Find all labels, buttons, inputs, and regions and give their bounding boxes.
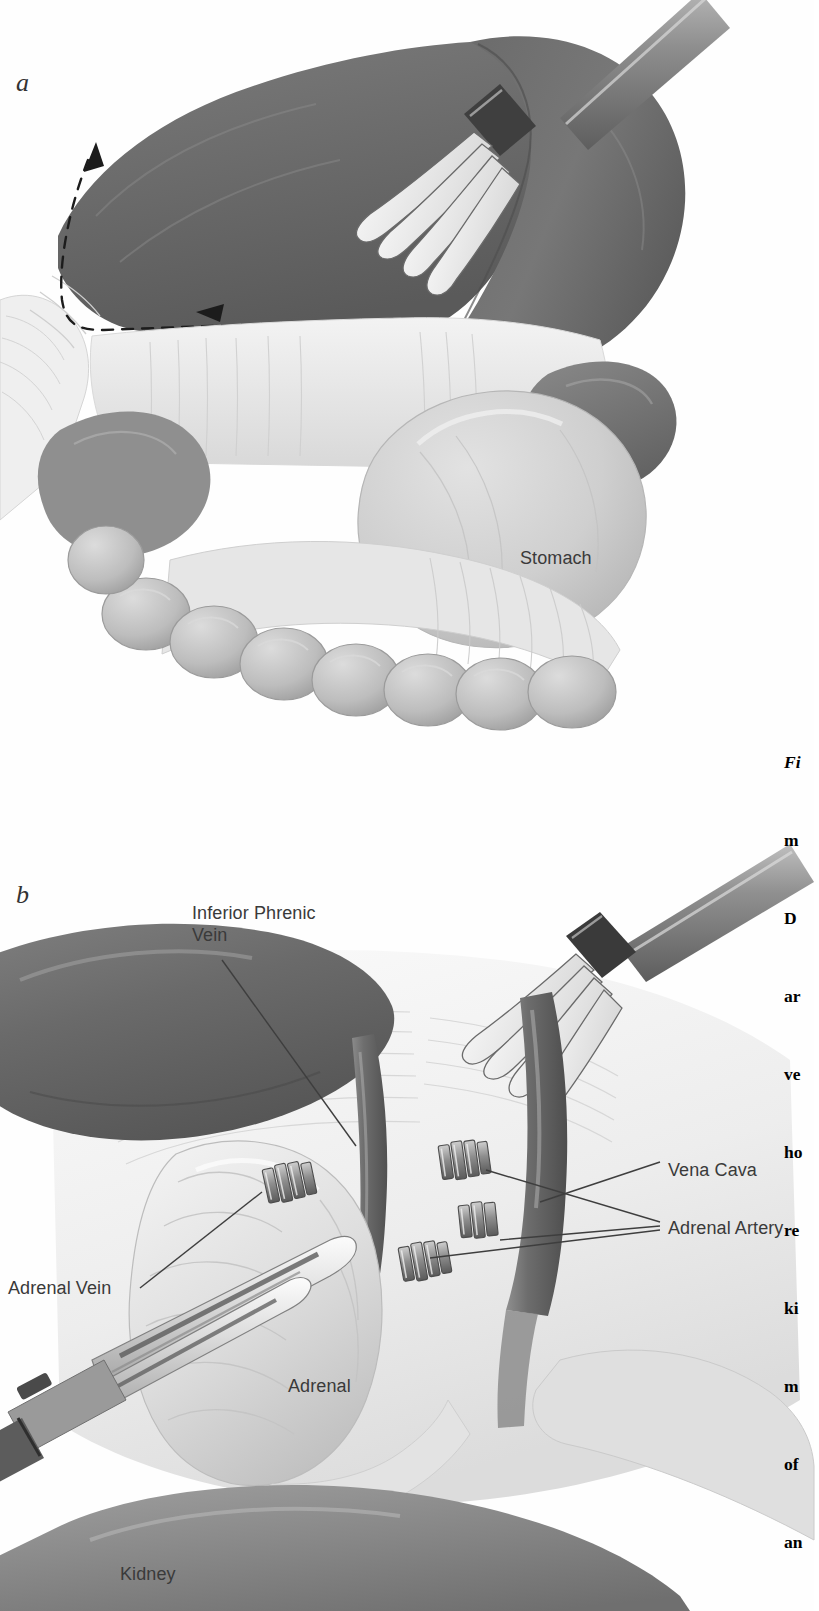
panel-a: a Stomach — [0, 0, 700, 700]
kidney — [0, 1485, 690, 1611]
label-kidney: Kidney — [120, 1564, 176, 1586]
caption-line-2: D — [784, 905, 819, 931]
panel-b: b Inferior Phrenic Vein Vena Cava Adrena… — [0, 840, 814, 1611]
panel-a-artwork — [0, 0, 700, 700]
panel-a-letter: a — [16, 68, 29, 98]
label-vena-cava: Vena Cava — [668, 1160, 757, 1182]
label-adrenal-artery: Adrenal Artery — [668, 1218, 783, 1240]
label-adrenal: Adrenal — [288, 1376, 351, 1398]
caption-line-8: m — [784, 1373, 819, 1399]
caption-line-10: an — [784, 1529, 819, 1555]
label-inferior-phrenic-vein: Inferior Phrenic Vein — [192, 903, 316, 947]
clip-cluster-adrenal-artery-middle — [458, 1200, 499, 1240]
panel-b-letter: b — [16, 880, 29, 910]
retraction-arrowhead-up — [84, 142, 104, 172]
caption-line-7: ki — [784, 1295, 819, 1321]
caption-line-5: ho — [784, 1139, 819, 1165]
caption-line-0: Fi — [784, 749, 819, 775]
caption-line-6: re — [784, 1217, 819, 1243]
caption-line-9: of — [784, 1451, 819, 1477]
figure-caption: Fi m D ar ve ho re ki m of an — [784, 697, 819, 1607]
caption-line-1: m — [784, 827, 819, 853]
label-adrenal-vein: Adrenal Vein — [8, 1278, 111, 1300]
caption-line-3: ar — [784, 983, 819, 1009]
caption-line-4: ve — [784, 1061, 819, 1087]
label-stomach: Stomach — [520, 548, 592, 570]
